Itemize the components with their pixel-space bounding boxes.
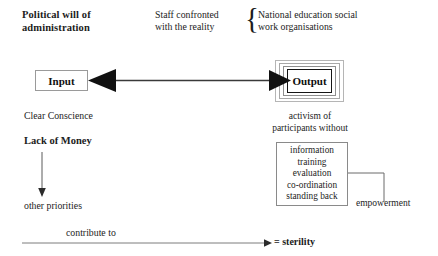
list-item: training: [298, 157, 327, 169]
output-box: Output: [287, 69, 332, 93]
list-item: information: [290, 145, 334, 157]
label-other-priorities: other priorities: [24, 200, 82, 212]
label-empowerment: empowerment: [356, 198, 410, 210]
heading-national-education: National education social work organisat…: [258, 9, 358, 33]
list-item: evaluation: [293, 168, 332, 180]
label-lack-of-money: Lack of Money: [24, 134, 92, 147]
list-item: standing back: [286, 191, 337, 203]
input-box-label: Input: [48, 75, 74, 87]
label-activism-of-participants: activism of participants without: [254, 111, 366, 135]
label-contribute-to: contribute to: [66, 227, 116, 239]
bottom-arrow-head: [264, 239, 272, 247]
list-item: co-ordination: [287, 180, 337, 192]
label-sterility: = sterility: [274, 236, 315, 249]
heading-political-will: Political will of administration: [22, 8, 91, 34]
diagram-canvas: Political will of administration Staff c…: [0, 0, 438, 256]
heading-staff-confronted: Staff confronted with the reality: [155, 9, 219, 33]
main-arrow-head-left: [88, 69, 116, 92]
connector-lines: [0, 0, 438, 256]
attributes-list-box: information training evaluation co-ordin…: [276, 142, 348, 206]
vertical-arrow-head: [38, 188, 46, 197]
output-box-group: Output: [275, 60, 344, 102]
label-clear-conscience: Clear Conscience: [24, 110, 93, 122]
input-box: Input: [35, 70, 88, 91]
output-box-label: Output: [292, 75, 326, 87]
curly-brace-icon: {: [245, 4, 259, 33]
